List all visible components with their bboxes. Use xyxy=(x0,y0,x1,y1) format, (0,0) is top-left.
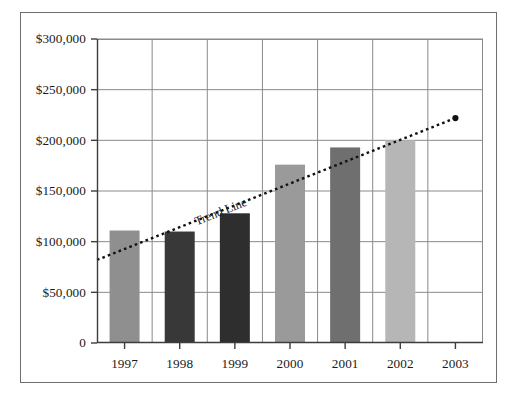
x-tick-label: 2001 xyxy=(332,357,359,370)
x-tick-label: 1998 xyxy=(166,357,193,370)
x-tick-label: 2002 xyxy=(387,357,414,370)
x-tick-label: 1997 xyxy=(111,357,138,370)
x-axis-tick-labels: 1997199819992000200120022003 xyxy=(0,0,511,397)
chart-figure: 0$50,000$100,000$150,000$200,000$250,000… xyxy=(0,0,511,397)
x-tick-label: 2000 xyxy=(277,357,304,370)
x-tick-label: 1999 xyxy=(221,357,248,370)
x-tick-label: 2003 xyxy=(442,357,469,370)
